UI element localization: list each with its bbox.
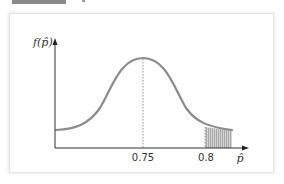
x-axis-arrow-icon: [242, 146, 249, 151]
y-axis-label: f(p̂): [32, 36, 53, 49]
y-axis-arrow-icon: [53, 38, 58, 45]
x-axis-label: p̂: [236, 152, 243, 165]
normal-distribution-chart: f(p̂) 0.75 0.8 p̂: [0, 0, 284, 184]
density-curve: [56, 58, 232, 130]
x-tick-0.75: 0.75: [132, 152, 154, 163]
x-tick-0.8: 0.8: [198, 152, 214, 163]
